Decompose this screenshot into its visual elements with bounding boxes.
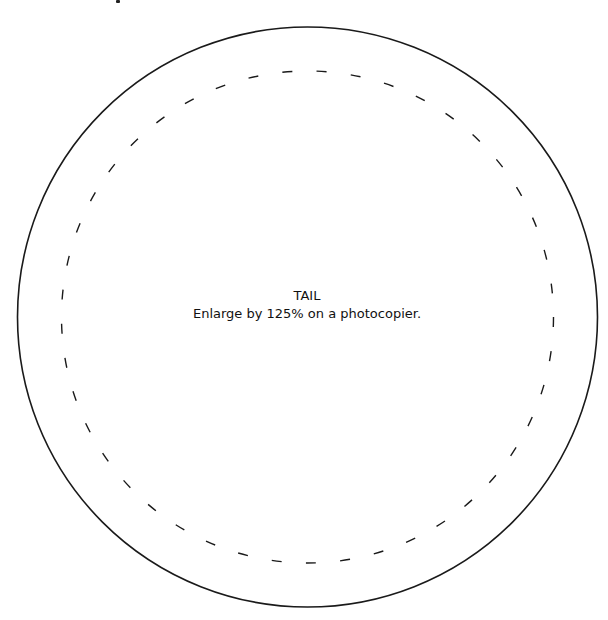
template-instruction: Enlarge by 125% on a photocopier. xyxy=(0,305,608,323)
template-title: TAIL xyxy=(0,287,608,305)
template-label: TAIL Enlarge by 125% on a photocopier. xyxy=(0,287,608,323)
